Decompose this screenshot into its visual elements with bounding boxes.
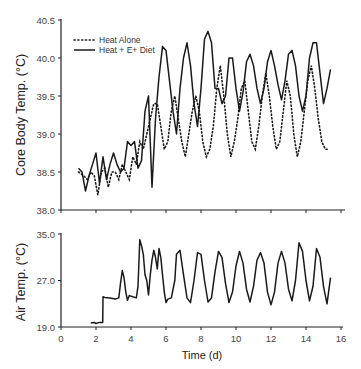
core-y-ticks: 38.038.539.039.540.040.5 — [37, 15, 62, 216]
y-tick-label: 35.0 — [37, 229, 56, 240]
y-tick-label: 39.5 — [37, 91, 56, 102]
legend-label-heat-alone: Heat Alone — [99, 35, 141, 45]
air-temp-chart: 19.027.035.0 0246810121416 Air Temp. (°C… — [14, 229, 346, 362]
air-y-axis-title: Air Temp. (°C) — [14, 243, 28, 321]
y-tick-label: 38.0 — [37, 205, 56, 216]
y-tick-label: 40.5 — [37, 15, 56, 26]
y-tick-label: 19.0 — [37, 322, 56, 333]
legend-label-heat-e-diet: Heat + E+ Diet — [99, 45, 155, 55]
legend: Heat Alone Heat + E+ Diet — [74, 35, 155, 55]
x-tick-label: 14 — [301, 333, 312, 344]
x-tick-label: 6 — [163, 333, 168, 344]
x-tick-label: 16 — [336, 333, 347, 344]
y-tick-label: 27.0 — [37, 275, 56, 286]
x-tick-label: 4 — [128, 333, 133, 344]
series-air-temp — [91, 240, 331, 324]
figure: 38.038.539.039.540.040.5 Heat Alone Heat… — [0, 0, 361, 369]
x-tick-label: 0 — [58, 333, 63, 344]
x-tick-label: 12 — [266, 333, 277, 344]
x-tick-label: 2 — [93, 333, 98, 344]
series-heat-alone — [79, 66, 329, 195]
core-temp-chart: 38.038.539.039.540.040.5 Heat Alone Heat… — [14, 15, 345, 216]
x-axis-title: Time (d) — [182, 349, 223, 361]
x-tick-label: 8 — [198, 333, 203, 344]
y-tick-label: 38.5 — [37, 167, 56, 178]
core-y-axis-title: Core Body Temp. (°C) — [14, 54, 28, 176]
y-tick-label: 40.0 — [37, 53, 56, 64]
series-heat-e-diet — [79, 31, 331, 191]
y-tick-label: 39.0 — [37, 129, 56, 140]
x-tick-label: 10 — [231, 333, 242, 344]
air-x-ticks: 0246810121416 — [58, 327, 346, 344]
air-y-ticks: 19.027.035.0 — [37, 229, 62, 333]
